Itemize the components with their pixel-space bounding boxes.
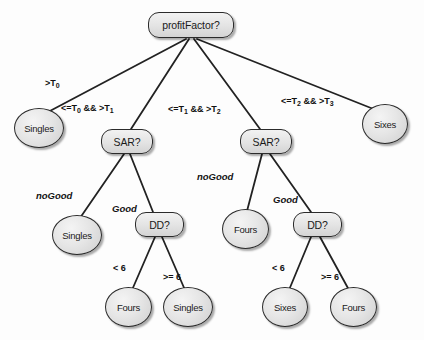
node-label: Singles <box>24 123 53 134</box>
node-label: SAR? <box>113 136 140 148</box>
edge-label-lbl-lt6-r: < 6 <box>272 263 285 273</box>
edge-label-lbl-lt6-l: < 6 <box>113 263 126 273</box>
leaf-node-leafFours3[interactable]: Fours <box>330 287 377 327</box>
decision-tree-diagram: profitFactor?SinglesSAR?SAR?SixesSingles… <box>0 0 424 340</box>
tree-edge <box>320 237 349 290</box>
leaf-node-leafSixes1[interactable]: Sixes <box>362 104 408 144</box>
node-label: Fours <box>234 224 257 235</box>
edge-label-lbl-t2-t3: <=T2 && >T3 <box>281 96 334 106</box>
leaf-node-leafSingles2[interactable]: Singles <box>52 215 102 255</box>
tree-edge <box>132 237 155 290</box>
node-label: Sixes <box>274 302 296 313</box>
leaf-node-leafFours1[interactable]: Fours <box>222 209 269 249</box>
decision-node-ddLeft[interactable]: DD? <box>135 212 184 237</box>
edge-label-lbl-nogood-r: noGood <box>197 171 233 182</box>
node-label: Singles <box>173 302 202 313</box>
edge-label-lbl-ge6-r: >= 6 <box>321 272 339 282</box>
node-label: DD? <box>307 219 328 231</box>
decision-node-sarRight[interactable]: SAR? <box>240 129 292 154</box>
decision-node-root[interactable]: profitFactor? <box>148 12 234 38</box>
node-label: Sixes <box>374 119 396 130</box>
node-label: Fours <box>117 302 140 313</box>
edge-label-lbl-good-l: Good <box>112 203 137 214</box>
node-label: DD? <box>149 219 170 231</box>
leaf-node-leafSingles3[interactable]: Singles <box>163 287 213 327</box>
tree-edge <box>162 237 185 290</box>
leaf-node-leafSingles1[interactable]: Singles <box>14 108 64 148</box>
edge-label-lbl-good-r: Good <box>273 194 298 205</box>
node-label: profitFactor? <box>162 19 220 31</box>
tree-edge <box>289 237 311 290</box>
edge-label-lbl-t1-t2: <=T1 && >T2 <box>168 104 221 114</box>
tree-edge <box>247 154 262 211</box>
node-label: SAR? <box>252 136 279 148</box>
node-label: Singles <box>62 230 91 241</box>
decision-node-sarLeft[interactable]: SAR? <box>101 129 153 154</box>
edge-label-lbl-t0-t1: <=T0 && >T1 <box>61 103 114 113</box>
decision-node-ddRight[interactable]: DD? <box>293 212 342 237</box>
tree-edge <box>194 39 260 129</box>
edge-label-lbl-gt-t0: >T0 <box>45 78 60 88</box>
edge-label-lbl-nogood-l: noGood <box>36 190 72 201</box>
leaf-node-leafFours2[interactable]: Fours <box>105 287 152 327</box>
node-label: Fours <box>342 302 365 313</box>
leaf-node-leafSixes2[interactable]: Sixes <box>262 287 308 327</box>
edge-label-lbl-ge6-l: >= 6 <box>163 272 181 282</box>
